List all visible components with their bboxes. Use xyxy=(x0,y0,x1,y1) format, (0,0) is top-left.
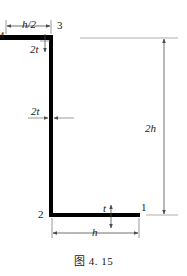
node-label-2: 2 xyxy=(38,209,44,220)
dim-overall-height xyxy=(80,38,178,215)
node-label-4: 4 xyxy=(0,30,5,41)
dim-label-bottom-flange-thickness: t xyxy=(103,203,106,214)
bottom-flange-shape xyxy=(49,213,140,217)
dim-label-overall-height: 2h xyxy=(145,123,156,134)
dim-label-top-flange-thickness: 2t xyxy=(30,44,39,55)
dim-label-bottom-flange-width: h xyxy=(92,227,98,238)
dim-label-top-flange-width: h/2 xyxy=(22,19,36,30)
node-label-3: 3 xyxy=(57,20,63,31)
dim-label-web-thickness: 2t xyxy=(31,106,40,117)
web-shape xyxy=(49,35,53,217)
section-outline xyxy=(0,35,140,217)
figure-caption: 图 4. 15 xyxy=(0,252,187,268)
figure-container: h/2 2t 2t 2h t h 4 3 2 1 图 4. 15 xyxy=(0,0,187,276)
node-label-1: 1 xyxy=(141,202,147,213)
